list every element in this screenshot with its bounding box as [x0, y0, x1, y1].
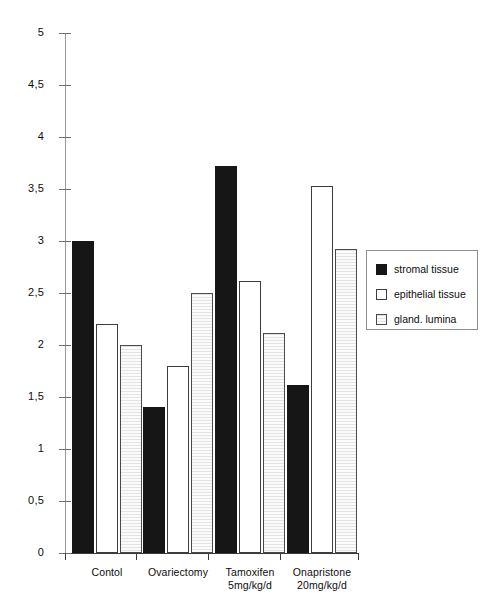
legend-swatch-epithelial — [376, 289, 387, 300]
bar-lumina-0 — [120, 345, 142, 553]
bar-epithelial-1 — [167, 366, 189, 553]
bar-epithelial-2 — [239, 281, 261, 553]
x-axis-separator — [280, 553, 281, 560]
bar-stromal-1 — [143, 407, 165, 553]
x-axis-line — [65, 553, 359, 554]
plot-area — [66, 33, 359, 553]
legend-label: stromal tissue — [394, 264, 459, 275]
category-label-line: Onapristone — [267, 566, 377, 579]
bar-lumina-2 — [263, 333, 285, 553]
bar-lumina-3 — [335, 249, 357, 553]
y-axis-tick-label: 2,5 — [0, 287, 44, 298]
y-axis-tick-label: 4 — [0, 131, 44, 142]
bar-stromal-3 — [287, 385, 309, 553]
x-axis-separator — [136, 553, 137, 560]
bar-lumina-1 — [191, 293, 213, 553]
legend-label: epithelial tissue — [394, 289, 466, 300]
y-axis-tick-label: 1,5 — [0, 391, 44, 402]
legend-swatch-stromal — [376, 264, 387, 275]
legend-label: gland. lumina — [394, 314, 456, 325]
x-axis-separator — [65, 553, 66, 560]
y-axis-tick-label: 0,5 — [0, 495, 44, 506]
bar-stromal-0 — [72, 241, 94, 553]
category-label-line: 20mg/kg/d — [267, 579, 377, 592]
legend-item-stromal[interactable]: stromal tissue — [376, 263, 459, 275]
chart-legend: stromal tissueepithelial tissuegland. lu… — [366, 250, 478, 330]
bar-stromal-2 — [215, 166, 237, 553]
legend-item-epithelial[interactable]: epithelial tissue — [376, 288, 466, 300]
bar-epithelial-0 — [96, 324, 118, 553]
y-axis-tick-label: 1 — [0, 443, 44, 454]
legend-swatch-lumina — [376, 314, 387, 325]
x-axis-separator — [208, 553, 209, 560]
x-axis-separator — [358, 553, 359, 560]
legend-item-lumina[interactable]: gland. lumina — [376, 313, 456, 325]
y-axis-tick-label: 3,5 — [0, 183, 44, 194]
bar-epithelial-3 — [311, 186, 333, 553]
y-axis-tick-label: 4,5 — [0, 79, 44, 90]
y-axis-tick-label: 0 — [0, 547, 44, 558]
bar-chart: 00,511,522,533,544,55 ContolOvariectomyT… — [0, 0, 489, 610]
y-axis-tick-label: 5 — [0, 27, 44, 38]
y-axis-tick-label: 2 — [0, 339, 44, 350]
x-axis-category-label: Onapristone20mg/kg/d — [267, 566, 377, 592]
y-axis-tick-label: 3 — [0, 235, 44, 246]
